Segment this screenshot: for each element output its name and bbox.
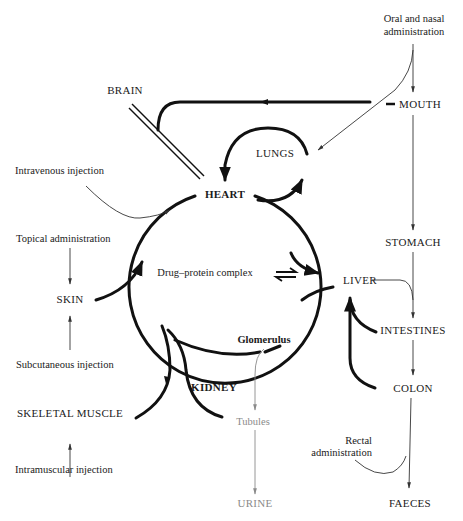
faeces-label: FAECES xyxy=(389,497,431,509)
intramuscular-label: Intramuscular injection xyxy=(15,464,113,475)
glomerulus-label: Glomerulus xyxy=(237,334,290,345)
rectal-label-2: administration xyxy=(311,447,372,458)
brain-label: BRAIN xyxy=(107,84,143,96)
intravenous-label: Intravenous injection xyxy=(15,165,105,176)
liver-label: LIVER xyxy=(343,274,377,286)
subcutaneous-label: Subcutaneous injection xyxy=(16,359,114,370)
drug-distribution-diagram: Oral and nasal administration MOUTH BRAI… xyxy=(0,0,463,521)
mouth-to-brain-heart-arrow xyxy=(158,99,395,130)
lungs-label: LUNGS xyxy=(256,147,294,159)
oral-route-lines xyxy=(318,44,413,488)
heart-label: HEART xyxy=(205,188,246,200)
topical-label: Topical administration xyxy=(16,233,111,244)
brain-heart-double-line xyxy=(129,104,204,179)
colon-label: COLON xyxy=(393,382,432,394)
stomach-label: STOMACH xyxy=(385,236,441,248)
equilibrium-icon xyxy=(276,268,296,281)
kidney-label: KIDNEY xyxy=(191,381,237,393)
rectal-label-1: Rectal xyxy=(345,435,372,446)
drug-protein-complex-label: Drug–protein complex xyxy=(157,267,253,278)
urine-label: URINE xyxy=(237,497,272,509)
intestines-label: INTESTINES xyxy=(380,324,445,336)
tubules-label: Tubules xyxy=(236,416,269,427)
skin-label: SKIN xyxy=(57,293,84,305)
oral-route-label-2: administration xyxy=(384,26,445,37)
mouth-label: MOUTH xyxy=(399,98,441,110)
oral-route-label-1: Oral and nasal xyxy=(384,13,445,24)
skeletal-muscle-label: SKELETAL MUSCLE xyxy=(17,407,123,419)
left-route-lines xyxy=(70,186,222,477)
